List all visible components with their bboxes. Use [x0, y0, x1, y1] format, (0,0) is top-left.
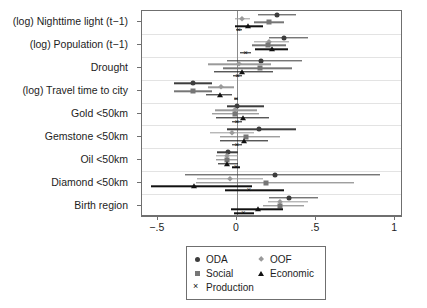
estimate-marker [240, 115, 246, 120]
estimate-marker [243, 50, 249, 56]
cross-marker-icon: × [193, 283, 201, 291]
estimate-marker [240, 210, 246, 215]
estimate-marker [235, 27, 241, 33]
legend-label: Social [206, 268, 233, 279]
square-marker-icon [193, 269, 201, 277]
estimate-marker [277, 203, 282, 208]
y-axis-label: Drought [91, 62, 128, 73]
legend-item-social[interactable]: Social [193, 268, 257, 279]
y-axis-label: Birth region [74, 199, 128, 210]
estimate-marker [257, 127, 262, 132]
estimate-marker [246, 187, 252, 193]
legend-item-oof[interactable]: OOF [257, 254, 327, 265]
estimate-marker [191, 184, 197, 189]
band-separator [142, 34, 401, 35]
estimate-marker [275, 12, 280, 17]
y-axis-label: (log) Population (t−1) [30, 39, 128, 50]
estimate-marker [281, 35, 286, 40]
plot-frame [141, 10, 402, 216]
confidence-interval-line [227, 106, 263, 107]
legend-item-oda[interactable]: ODA [193, 254, 257, 265]
estimate-marker [224, 161, 230, 166]
y-axis-tick [137, 205, 141, 206]
estimate-marker [217, 92, 223, 97]
y-axis-label: Diamond <50km [51, 176, 128, 187]
x-axis-tick-label: .5 [311, 221, 320, 233]
y-axis-label: (log) Travel time to city [22, 85, 128, 96]
estimate-marker [234, 142, 240, 148]
band-separator [142, 125, 401, 126]
x-axis-tick [236, 216, 237, 220]
x-axis-line [141, 216, 402, 217]
confidence-interval-line [269, 37, 309, 38]
confidence-interval-line [220, 136, 279, 137]
y-axis-tick [137, 136, 141, 137]
estimate-marker [272, 173, 277, 178]
plot-area [142, 11, 401, 215]
legend-item-economic[interactable]: Economic [257, 268, 327, 279]
estimate-marker [255, 207, 261, 212]
estimate-marker [264, 180, 269, 185]
legend-label: ODA [206, 254, 228, 265]
chart-root: (log) Nighttime light (t−1)(log) Populat… [0, 0, 427, 308]
estimate-marker [191, 89, 196, 94]
legend-label: Production [206, 282, 254, 293]
confidence-interval-line [196, 182, 354, 183]
estimate-marker [234, 119, 240, 125]
band-separator [142, 194, 401, 195]
legend-label: OOF [270, 254, 292, 265]
y-axis-tick [137, 113, 141, 114]
y-axis-tick [137, 44, 141, 45]
y-axis-tick [137, 182, 141, 183]
estimate-marker [266, 20, 271, 25]
band-separator [142, 80, 401, 81]
y-axis-tick [137, 67, 141, 68]
y-axis-tick [137, 90, 141, 91]
confidence-interval-line [263, 205, 304, 206]
x-axis-tick [157, 216, 158, 220]
x-axis-tick [315, 216, 316, 220]
y-axis-label: Gold <50km [71, 108, 128, 119]
diamond-marker-icon [257, 255, 265, 263]
x-axis-tick-label: 1 [391, 221, 397, 233]
estimate-marker [287, 195, 292, 200]
estimate-marker [257, 66, 262, 71]
y-axis-tick [137, 159, 141, 160]
estimate-marker [258, 58, 263, 63]
x-axis-tick-label: −.5 [149, 221, 164, 233]
band-separator [142, 148, 401, 149]
band-separator [142, 103, 401, 104]
y-axis-label: Oil <50km [80, 153, 128, 164]
confidence-interval-line [225, 190, 284, 191]
confidence-interval-line [185, 174, 380, 175]
band-separator [142, 57, 401, 58]
estimate-marker [233, 164, 239, 170]
estimate-marker [269, 46, 275, 51]
confidence-interval-line [268, 201, 308, 202]
y-axis-label: Gemstone <50km [45, 130, 128, 141]
circle-marker-icon [193, 255, 201, 263]
estimate-marker [235, 73, 241, 79]
band-separator [142, 171, 401, 172]
confidence-interval-line [269, 197, 318, 198]
estimate-marker [241, 138, 247, 143]
estimate-marker [190, 81, 195, 86]
x-axis-tick-label: 0 [233, 221, 239, 233]
triangle-marker-icon [257, 269, 265, 277]
estimate-marker [233, 96, 239, 102]
estimate-marker [245, 24, 251, 29]
y-axis-tick [137, 21, 141, 22]
y-axis-labels: (log) Nighttime light (t−1)(log) Populat… [0, 10, 136, 216]
estimate-marker [239, 16, 245, 22]
x-axis-tick [394, 216, 395, 220]
chart-legend: ODAOOFSocialEconomic×Production [186, 246, 326, 300]
legend-label: Economic [270, 268, 314, 279]
legend-item-production[interactable]: ×Production [193, 282, 257, 293]
estimate-marker [218, 84, 224, 90]
confidence-interval-line [151, 186, 252, 187]
y-axis-label: (log) Nighttime light (t−1) [13, 16, 128, 27]
